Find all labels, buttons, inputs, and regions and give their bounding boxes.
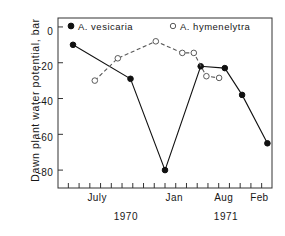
data-point — [204, 73, 210, 79]
data-point — [128, 76, 134, 82]
x-group-label-1971: 1971 — [214, 211, 238, 222]
data-point — [92, 78, 98, 84]
y-tick-marks — [58, 27, 63, 170]
axis-frame — [58, 18, 272, 188]
y-tick-label-minus60: -60 — [38, 132, 53, 143]
legend-entry-hymenelytra: A. hymenelytra — [180, 21, 250, 32]
data-series-group — [70, 39, 270, 173]
legend-entry-vesicaria: A. vesicaria — [78, 21, 133, 32]
y-tick-label-group: 0 -20 -40 -60 -80 — [22, 0, 53, 236]
series-line-1 — [95, 41, 219, 80]
legend-marker-open-circle — [170, 23, 175, 28]
legend-marker-filled-circle — [68, 23, 74, 29]
data-point — [239, 92, 245, 98]
x-group-label-1970: 1970 — [114, 211, 138, 222]
chart-figure: Dawn plant water potential, bar 0 -20 -4… — [0, 0, 285, 236]
data-point — [222, 65, 228, 71]
data-point — [153, 39, 159, 45]
x-tick-label-feb: Feb — [250, 192, 268, 203]
data-point — [162, 167, 168, 173]
data-point — [265, 141, 271, 147]
data-point — [180, 50, 186, 56]
x-tick-marks — [68, 183, 261, 188]
y-tick-label-minus20: -20 — [38, 61, 53, 72]
x-tick-label-aug: Aug — [214, 192, 233, 203]
series-line-0 — [73, 45, 267, 170]
x-tick-label-july: July — [87, 192, 106, 203]
x-tick-label-jan: Jan — [166, 192, 183, 203]
y-tick-label-minus80: -80 — [38, 167, 53, 178]
data-point — [191, 50, 197, 56]
data-point — [216, 75, 222, 81]
y-tick-label-0: 0 — [47, 26, 53, 37]
data-point — [115, 56, 121, 62]
data-point — [70, 42, 76, 48]
y-tick-label-minus40: -40 — [38, 96, 53, 107]
